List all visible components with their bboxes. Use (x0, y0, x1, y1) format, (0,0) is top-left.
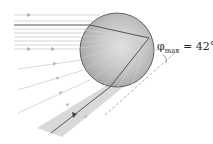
phi-symbol: φ (157, 40, 165, 53)
phi-value: = 42° (179, 40, 213, 53)
water-droplet (80, 13, 154, 87)
exit-beam (37, 82, 127, 137)
phi-max-label: φmax = 42° (157, 40, 213, 53)
rainbow-droplet-diagram (0, 0, 213, 144)
phi-subscript: max (165, 47, 180, 55)
